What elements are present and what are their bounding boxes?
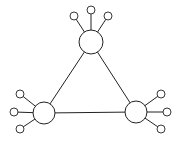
leaf-node-top-0 — [70, 12, 78, 20]
hub-node-top — [79, 30, 103, 54]
leaf-node-left-0 — [16, 90, 24, 98]
leaf-node-top-1 — [87, 6, 95, 14]
edge-top-left — [44, 42, 91, 113]
leaf-node-right-1 — [163, 108, 171, 116]
leaf-node-top-2 — [104, 12, 112, 20]
leaf-node-right-0 — [157, 90, 165, 98]
leaf-node-left-1 — [10, 108, 18, 116]
leaf-node-right-2 — [157, 125, 165, 133]
hub-node-left — [33, 102, 55, 124]
edge-left-right — [44, 112, 136, 113]
leaf-node-left-2 — [16, 125, 24, 133]
hub-node-right — [125, 101, 147, 123]
network-diagram — [0, 0, 180, 143]
